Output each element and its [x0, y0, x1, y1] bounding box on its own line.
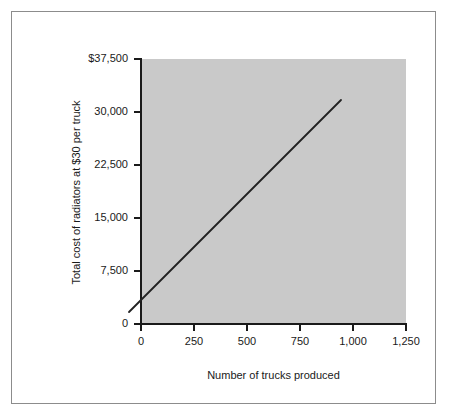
x-axis-title: Number of trucks produced — [141, 369, 406, 382]
x-tick-mark — [140, 324, 142, 331]
y-axis-line — [140, 58, 142, 325]
x-tick-label: 750 — [270, 335, 330, 347]
x-tick-label: 250 — [164, 335, 224, 347]
x-tick-mark — [352, 324, 354, 331]
y-axis-title: Total cost of radiators at $30 per truck — [70, 60, 83, 325]
x-tick-mark — [405, 324, 407, 331]
figure-border: $37,500 30,000 22,500 15,000 7,500 0 0 2… — [11, 11, 436, 404]
y-tick-mark — [134, 58, 141, 60]
y-tick-mark — [134, 270, 141, 272]
plot-area — [141, 59, 406, 324]
x-tick-label: 500 — [217, 335, 277, 347]
y-tick-mark — [134, 164, 141, 166]
x-tick-mark — [299, 324, 301, 331]
y-tick-mark — [134, 217, 141, 219]
x-tick-label: 0 — [111, 335, 171, 347]
y-tick-mark — [134, 111, 141, 113]
x-tick-label: 1,250 — [376, 335, 436, 347]
chart-figure: $37,500 30,000 22,500 15,000 7,500 0 0 2… — [0, 0, 454, 419]
x-tick-label: 1,000 — [323, 335, 383, 347]
x-axis-line — [140, 323, 407, 325]
x-tick-mark — [246, 324, 248, 331]
x-tick-mark — [193, 324, 195, 331]
